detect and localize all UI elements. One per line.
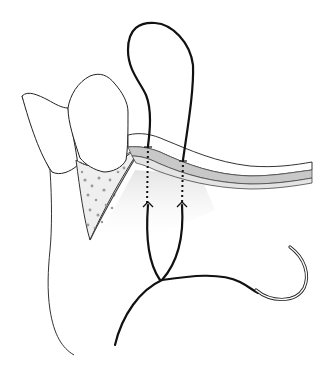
suture-needle-inner [256, 247, 306, 300]
diagram-svg [0, 0, 330, 370]
suture-diagram [0, 0, 330, 370]
suture-tail [115, 280, 162, 345]
suture-to-needle [162, 276, 258, 293]
